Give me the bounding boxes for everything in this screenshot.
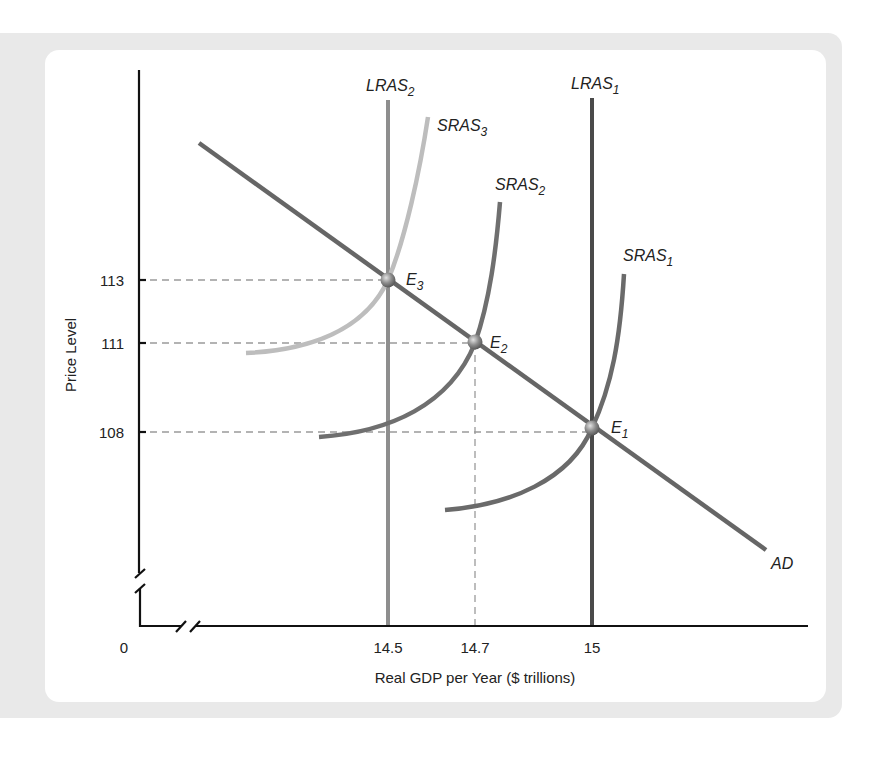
y-tick-label-108: 108 <box>99 424 124 441</box>
x-tick-label-15: 15 <box>584 639 601 656</box>
label-e3: E3 <box>406 271 424 293</box>
label-e1: E1 <box>611 419 628 441</box>
point-e1 <box>585 421 600 436</box>
origin-label: 0 <box>120 639 128 656</box>
y-tick-label-113: 113 <box>100 272 124 289</box>
x-axis-title: Real GDP per Year ($ trillions) <box>375 669 576 686</box>
y-tick-label-111: 111 <box>101 335 124 352</box>
ad-line <box>199 143 766 550</box>
label-lras1: LRAS1 <box>571 75 619 97</box>
label-lras2: LRAS2 <box>366 77 415 99</box>
x-tick-label-14-7: 14.7 <box>460 639 489 656</box>
sras1-curve <box>445 274 624 510</box>
label-sras3: SRAS3 <box>437 117 488 139</box>
label-ad: AD <box>770 555 794 572</box>
sras3-curve <box>246 117 428 353</box>
y-axis-title: Price Level <box>62 318 79 392</box>
label-sras1: SRAS1 <box>623 247 673 269</box>
point-e2 <box>468 335 483 350</box>
label-sras2: SRAS2 <box>495 176 546 198</box>
x-tick-label-14-5: 14.5 <box>373 639 402 656</box>
chart-canvas: LRAS2 LRAS1 SRAS3 SRAS2 SRAS1 AD E3 E2 E… <box>0 0 869 757</box>
sras2-curve <box>319 202 500 437</box>
guide-lines <box>150 280 592 626</box>
point-e3 <box>381 273 396 288</box>
